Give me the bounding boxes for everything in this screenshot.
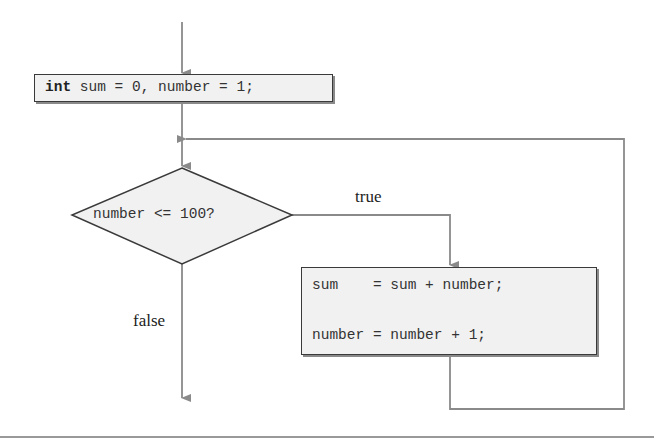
init-box: int sum = 0, number = 1; (34, 74, 333, 102)
false-label: false (133, 311, 165, 331)
flowchart: int sum = 0, number = 1; number <= 100? … (0, 0, 654, 439)
init-statement: int sum = 0, number = 1; (45, 79, 254, 95)
int-keyword: int (45, 79, 71, 95)
process-box: sum = sum + number; number = number + 1; (301, 267, 597, 355)
process-line-1: sum = sum + number; (312, 277, 503, 293)
decision-condition: number <= 100? (93, 206, 215, 222)
process-line-2: number = number + 1; (312, 327, 486, 343)
init-rest: sum = 0, number = 1; (71, 79, 254, 95)
true-branch-arrow (292, 215, 450, 265)
true-label: true (355, 187, 381, 207)
